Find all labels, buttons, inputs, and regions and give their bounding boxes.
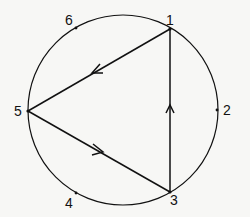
edge-1-5 bbox=[28, 29, 170, 111]
point-label-6: 6 bbox=[65, 13, 73, 27]
point-dots bbox=[26, 27, 218, 195]
circle-triangle-diagram bbox=[0, 0, 250, 217]
point-label-3: 3 bbox=[170, 193, 178, 207]
diagram-canvas: 1 2 3 4 5 6 bbox=[0, 0, 250, 217]
point-label-4: 4 bbox=[65, 196, 73, 210]
point-label-2: 2 bbox=[223, 103, 231, 117]
point-label-1: 1 bbox=[166, 13, 174, 27]
point-label-5: 5 bbox=[14, 104, 22, 118]
circle bbox=[28, 15, 218, 205]
edge-5-3 bbox=[28, 111, 170, 192]
triangle bbox=[28, 29, 174, 192]
